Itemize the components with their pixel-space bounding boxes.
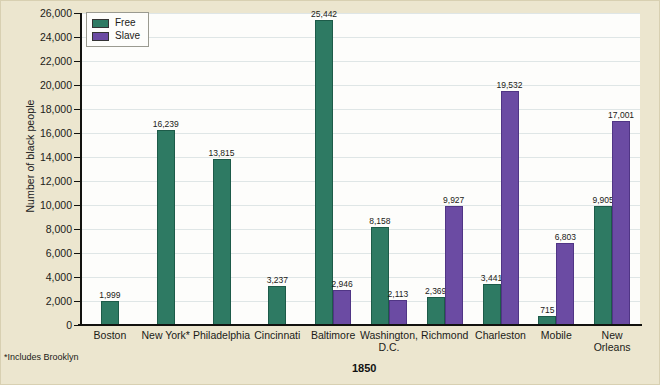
bar-value-label: 9,927 [433,195,475,205]
legend-item-slave: Slave [92,30,140,42]
bar-value-label: 8,158 [359,216,401,226]
bar-value-label: 25,442 [303,9,345,19]
x-tick-label-line: Orleans [578,342,646,354]
y-tick-label: 24,000 [16,31,72,43]
bar-value-label: 13,815 [201,148,243,158]
bar-free [101,301,119,325]
x-axis-title: 1850 [352,362,376,374]
bar-value-label: 6,803 [544,232,586,242]
y-tick-label: 26,000 [16,7,72,19]
y-tick-label: 20,000 [16,79,72,91]
x-tick-label-line: D.C. [355,342,423,354]
bar-value-label: 17,001 [600,110,642,120]
chart-legend: Free Slave [86,12,149,47]
gridline [82,13,640,14]
bar-slave [501,91,519,325]
bar-free [427,297,445,325]
bar-slave [556,243,574,325]
y-tick-label: 6,000 [16,247,72,259]
bar-slave [445,206,463,325]
bar-value-label: 1,999 [89,290,131,300]
y-tick-label: 16,000 [16,127,72,139]
x-axis-line [78,324,642,326]
legend-swatch-slave-icon [92,32,109,41]
x-tick-label-line: New [578,330,646,342]
bar-free [213,159,231,325]
legend-swatch-free-icon [92,19,109,28]
bar-value-label: 2,113 [377,289,419,299]
bar-free [483,284,501,325]
legend-label-free: Free [115,18,136,28]
bar-free [268,286,286,325]
gridline [82,85,640,86]
footnote: *Includes Brooklyn [4,352,79,362]
y-tick-label: 2,000 [16,295,72,307]
bar-slave [389,300,407,325]
bar-value-label: 2,946 [321,279,363,289]
bar-slave [333,290,351,325]
y-tick-label: 10,000 [16,199,72,211]
y-tick-label: 14,000 [16,151,72,163]
bar-value-label: 3,237 [256,275,298,285]
legend-label-slave: Slave [115,31,140,41]
bar-slave [612,121,630,325]
chart-page: Number of black people 02,0004,0006,0008… [0,0,660,385]
bar-free [157,130,175,325]
bar-value-label: 19,532 [489,80,531,90]
y-tick-label: 12,000 [16,175,72,187]
bar-free [594,206,612,325]
x-tick-label: NewOrleans [578,330,646,353]
y-tick-label: 4,000 [16,271,72,283]
bar-free [371,227,389,325]
gridline [82,37,640,38]
y-tick-label: 18,000 [16,103,72,115]
gridline [82,109,640,110]
bar-value-label: 16,239 [145,119,187,129]
y-tick-label: 8,000 [16,223,72,235]
legend-item-free: Free [92,17,140,29]
y-tick-label: 22,000 [16,55,72,67]
y-axis-line [80,13,82,325]
y-tick-label: 0 [16,319,72,331]
gridline [82,61,640,62]
plot-area: 1,99916,23913,8153,23725,4422,9468,1582,… [82,13,640,325]
